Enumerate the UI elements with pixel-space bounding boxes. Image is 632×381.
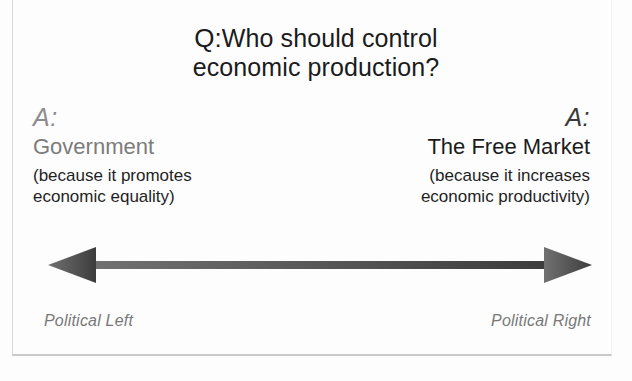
political-spectrum-diagram: Q:Who should control economic production… [0, 0, 632, 381]
answer-left-reason-line-2: economic equality) [33, 186, 293, 207]
answer-right-reason-line-2: economic productivity) [330, 186, 590, 207]
question-block: Q:Who should control economic production… [0, 24, 632, 82]
question-text-line-1: Who should control [222, 24, 438, 52]
answer-right-reason-line-1: (because it increases [330, 165, 590, 186]
question-marker: Q: [194, 23, 221, 53]
question-line-1: Q:Who should control [0, 24, 632, 53]
answer-left-title: Government [33, 133, 293, 161]
answer-left-column: A: Government (because it promotes econo… [33, 104, 293, 207]
axis-label-political-right: Political Right [491, 312, 591, 330]
answer-right-title: The Free Market [330, 133, 590, 161]
answer-left-reason-line-1: (because it promotes [33, 165, 293, 186]
answer-left-marker: A: [33, 104, 293, 131]
question-line-2: economic production? [0, 53, 632, 82]
axis-label-political-left: Political Left [44, 312, 133, 330]
double-headed-arrow-icon [44, 240, 596, 290]
answer-left-reason: (because it promotes economic equality) [33, 165, 293, 207]
answer-right-reason: (because it increases economic productiv… [330, 165, 590, 207]
answer-right-column: A: The Free Market (because it increases… [330, 104, 590, 207]
answer-right-marker: A: [330, 104, 590, 131]
